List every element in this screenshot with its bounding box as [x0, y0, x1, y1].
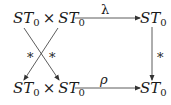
node-subscript: 0 — [33, 17, 39, 28]
times-operator: × — [43, 79, 56, 97]
node-subscript: 0 — [33, 87, 39, 98]
rho-label: ρ — [100, 73, 108, 86]
node-bottom-left: ST0×ST0 — [13, 81, 85, 98]
cross-left-star-label: * — [27, 51, 34, 64]
right-star-label: * — [157, 51, 164, 64]
node-top-left: ST0×ST0 — [13, 11, 85, 28]
node-subscript: 0 — [79, 17, 85, 28]
node-text: ST — [13, 9, 33, 27]
commutative-diagram: ST0×ST0 ST0 ST0×ST0 ST0 λ ρ * * * — [0, 0, 171, 105]
node-text: ST — [58, 79, 78, 97]
node-text: ST — [13, 79, 33, 97]
node-text: ST — [140, 79, 160, 97]
node-subscript: 0 — [160, 87, 166, 98]
node-text: ST — [58, 9, 78, 27]
node-subscript: 0 — [160, 17, 166, 28]
lambda-label: λ — [101, 3, 109, 16]
times-operator: × — [43, 9, 56, 27]
node-text: ST — [140, 9, 160, 27]
node-top-right: ST0 — [140, 11, 167, 28]
node-subscript: 0 — [79, 87, 85, 98]
cross-right-star-label: * — [49, 51, 56, 64]
node-bottom-right: ST0 — [140, 81, 167, 98]
